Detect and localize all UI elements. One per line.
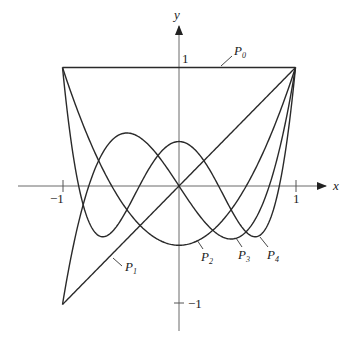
y-tick-label-neg1: −1 (188, 296, 202, 311)
leader-p4 (260, 237, 268, 247)
leader-p1 (113, 258, 122, 266)
label-p1: P1 (124, 259, 137, 276)
x-axis-label: x (332, 178, 339, 193)
leader-p3 (236, 238, 242, 247)
y-axis-label: y (172, 7, 180, 22)
label-p4: P4 (266, 247, 279, 264)
x-tick-label-pos1: 1 (293, 191, 300, 206)
label-p3: P3 (237, 247, 250, 264)
x-tick-label-neg1: −1 (50, 191, 64, 206)
leader-p2 (197, 240, 203, 249)
leader-p0 (221, 56, 232, 66)
label-p2: P2 (200, 249, 213, 266)
y-tick-label-pos1: 1 (182, 51, 189, 66)
label-p0: P0 (233, 43, 246, 60)
legendre-diagram: x y −1 1 1 −1 P0 P1 P2 P3 P4 (0, 0, 354, 349)
